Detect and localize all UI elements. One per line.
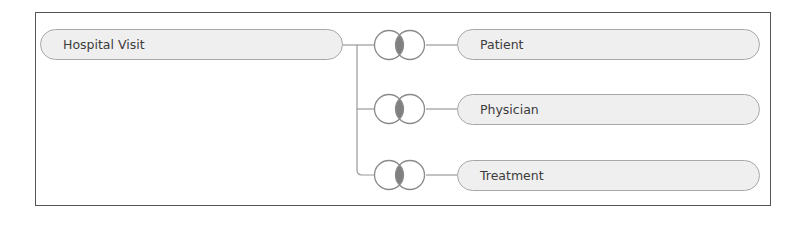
venn-join-icon[interactable] [373,159,427,191]
table-patient[interactable]: Patient [457,29,760,60]
table-treatment[interactable]: Treatment [457,160,760,191]
table-physician[interactable]: Physician [457,94,760,125]
table-label: Treatment [480,168,544,183]
venn-join-icon[interactable] [373,93,427,125]
table-label: Physician [480,102,539,117]
root-table-label: Hospital Visit [63,37,145,52]
venn-join-icon[interactable] [373,29,427,61]
table-label: Patient [480,37,524,52]
root-table-hospital-visit[interactable]: Hospital Visit [40,29,343,60]
